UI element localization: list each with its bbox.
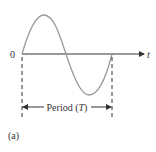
axis-label-t: t	[147, 49, 150, 60]
period-label-prefix: Period (	[47, 102, 80, 114]
figure-caption: (a)	[8, 130, 19, 141]
period-label-suffix: )	[84, 102, 87, 114]
sine-wave	[22, 15, 112, 95]
origin-label: 0	[10, 49, 15, 60]
diagram-canvas: 0 t Period (T)	[0, 0, 156, 152]
period-label: Period (T)	[47, 102, 88, 114]
sine-period-diagram: 0 t Period (T) (a)	[0, 0, 156, 152]
